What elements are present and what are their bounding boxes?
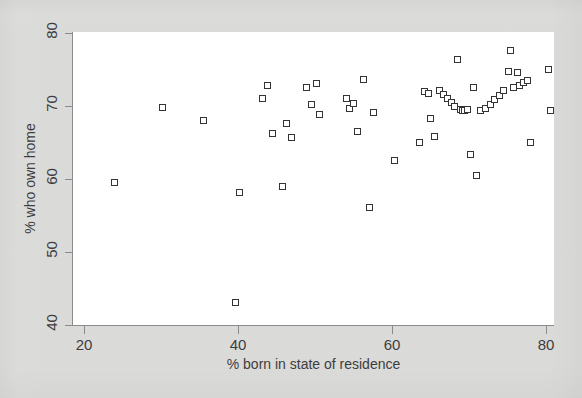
- data-point: [431, 133, 438, 140]
- data-point: [416, 139, 423, 146]
- data-point: [200, 117, 207, 124]
- data-point: [547, 107, 554, 114]
- scatter-plot-figure: 4050607080 20406080 % who own home % bor…: [0, 0, 582, 398]
- data-point: [279, 183, 286, 190]
- plot-area: [73, 32, 554, 325]
- data-point: [159, 104, 166, 111]
- x-axis-tick: [238, 326, 239, 334]
- data-point: [427, 115, 434, 122]
- data-point: [473, 172, 480, 179]
- y-axis-tick: [65, 252, 73, 253]
- data-point: [259, 95, 266, 102]
- data-point: [467, 151, 474, 158]
- data-point: [303, 84, 310, 91]
- y-axis-title-text: % who own home: [14, 32, 46, 325]
- x-axis-tick-label: 20: [64, 336, 104, 353]
- y-axis-tick: [65, 33, 73, 34]
- x-axis-tick: [546, 326, 547, 334]
- data-point: [316, 111, 323, 118]
- data-point: [470, 84, 477, 91]
- data-point: [505, 68, 512, 75]
- data-point: [354, 128, 361, 135]
- x-axis-tick: [392, 326, 393, 334]
- y-axis-title: % who own home: [14, 32, 46, 325]
- data-point: [288, 134, 295, 141]
- y-axis-tick: [65, 179, 73, 180]
- data-point: [524, 77, 531, 84]
- x-axis-tick-label: 80: [526, 336, 566, 353]
- data-point: [514, 69, 521, 76]
- data-point: [527, 139, 534, 146]
- data-point: [454, 56, 461, 63]
- x-axis-tick-label: 60: [372, 336, 412, 353]
- x-axis-spine: [72, 325, 554, 326]
- x-axis-tick: [84, 326, 85, 334]
- data-point: [350, 100, 357, 107]
- data-point: [232, 299, 239, 306]
- data-point: [269, 130, 276, 137]
- data-point: [370, 109, 377, 116]
- data-point: [545, 66, 552, 73]
- data-point: [425, 90, 432, 97]
- data-point: [308, 101, 315, 108]
- data-point: [313, 80, 320, 87]
- data-point: [500, 87, 507, 94]
- x-axis-tick-label: 40: [218, 336, 258, 353]
- data-point: [264, 82, 271, 89]
- data-point: [391, 157, 398, 164]
- y-axis-tick: [65, 325, 73, 326]
- data-point: [236, 189, 243, 196]
- data-point: [360, 76, 367, 83]
- y-axis-tick: [65, 106, 73, 107]
- data-point: [283, 120, 290, 127]
- data-point: [111, 179, 118, 186]
- x-axis-title: % born in state of residence: [73, 356, 554, 372]
- data-point: [507, 47, 514, 54]
- data-point: [343, 95, 350, 102]
- data-point: [366, 204, 373, 211]
- data-point: [464, 106, 471, 113]
